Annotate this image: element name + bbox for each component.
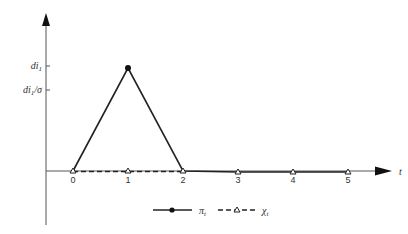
y-axis-arrow-icon [42, 13, 50, 26]
y-tick-label-di1-sigma: di1/σ [23, 84, 43, 97]
chart-canvas: t di1 di1/σ 0 1 2 3 4 5 πt χt [0, 0, 408, 234]
x-tick-label-4: 4 [290, 175, 295, 185]
x-tick-label-5: 5 [345, 175, 350, 185]
series-pi-line [73, 68, 348, 172]
legend-pi-marker [169, 207, 174, 212]
x-tick-label-1: 1 [125, 175, 130, 185]
x-tick-label-0: 0 [70, 175, 75, 185]
x-tick-label-2: 2 [180, 175, 185, 185]
x-axis-arrow-icon [375, 167, 392, 176]
x-tick-label-3: 3 [235, 175, 240, 185]
legend-chi-label: χt [261, 205, 269, 218]
y-tick-label-di1: di1 [31, 60, 42, 73]
legend: πt χt [153, 205, 269, 218]
x-axis-label: t [399, 166, 402, 177]
legend-pi-label: πt [199, 205, 207, 218]
series-pi-marker-1 [125, 65, 131, 71]
